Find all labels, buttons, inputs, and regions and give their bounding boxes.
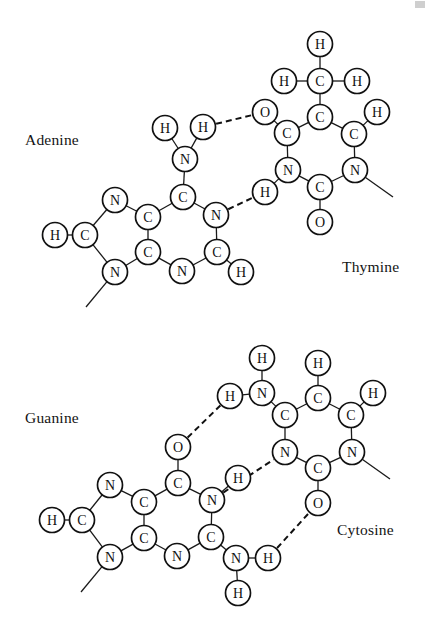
covalent-bond xyxy=(296,457,307,462)
atom-n: N xyxy=(340,440,365,465)
atom-circle xyxy=(40,508,65,533)
atom-h: H xyxy=(306,351,331,376)
atom-c: C xyxy=(308,175,333,200)
covalent-bond xyxy=(172,139,178,149)
sugar-bond-stub xyxy=(86,282,107,307)
atom-h: H xyxy=(218,384,243,409)
atom-circle xyxy=(343,158,368,183)
covalent-bond xyxy=(299,176,309,181)
covalent-bond xyxy=(194,203,205,209)
covalent-bond xyxy=(274,179,279,184)
covalent-bond xyxy=(159,203,172,211)
atom-n: N xyxy=(343,158,368,183)
covalent-bond xyxy=(93,209,107,225)
atom-h: H xyxy=(308,32,333,57)
atom-h: H xyxy=(365,100,390,125)
atom-circle xyxy=(103,260,128,285)
atom-c: C xyxy=(73,223,98,248)
atom-c: C xyxy=(306,386,331,411)
atom-circle xyxy=(250,381,275,406)
atom-circle xyxy=(103,188,128,213)
base-pair-figure: HCNNCCCNCNHNHHHCHHCCONHCONCHHCNNCCCONHCN… xyxy=(0,0,428,621)
atom-c: C xyxy=(132,490,157,515)
atom-o: O xyxy=(253,100,278,125)
atom-circle xyxy=(70,508,95,533)
atom-c: C xyxy=(70,508,95,533)
atom-n: N xyxy=(224,546,249,571)
atom-circle xyxy=(204,203,229,228)
atom-circle xyxy=(306,491,331,516)
atom-circle xyxy=(361,381,386,406)
covalent-bond xyxy=(191,138,197,148)
atom-circle xyxy=(153,116,178,141)
covalent-bond xyxy=(93,245,107,263)
atom-circle xyxy=(306,386,331,411)
atom-circle xyxy=(226,581,251,606)
atom-h: H xyxy=(226,466,251,491)
atom-h: H xyxy=(43,223,68,248)
covalent-bond xyxy=(298,122,309,127)
covalent-bond xyxy=(184,171,185,184)
atom-circle xyxy=(173,147,198,172)
atom-circle xyxy=(224,546,249,571)
atom-circle xyxy=(165,544,190,569)
atom-circle xyxy=(273,403,298,428)
atom-h: H xyxy=(250,346,275,371)
atom-circle xyxy=(98,545,123,570)
atom-circle xyxy=(191,115,216,140)
atom-n: N xyxy=(165,544,190,569)
atom-circle xyxy=(171,185,196,210)
atom-node-layer: HCNNCCCNCNHNHHHCHHCCONHCONCHHCNNCCCONHCN… xyxy=(40,32,390,606)
atom-circle xyxy=(308,175,333,200)
atom-n: N xyxy=(170,259,195,284)
atom-n: N xyxy=(98,473,123,498)
atom-h: H xyxy=(191,115,216,140)
atom-circle xyxy=(229,260,254,285)
covalent-bond xyxy=(363,121,368,126)
atom-o: O xyxy=(166,435,191,460)
atom-n: N xyxy=(98,545,123,570)
covalent-bond xyxy=(155,544,166,550)
atom-circle xyxy=(365,100,390,125)
covalent-bond xyxy=(159,258,171,265)
covalent-bond xyxy=(227,260,232,264)
atom-c: C xyxy=(308,69,333,94)
covalent-bond xyxy=(155,489,167,496)
atom-circle xyxy=(272,69,297,94)
atom-c: C xyxy=(306,456,331,481)
atom-circle xyxy=(199,525,224,550)
atom-c: C xyxy=(199,525,224,550)
atom-circle xyxy=(132,526,157,551)
atom-c: C xyxy=(205,240,230,265)
atom-circle xyxy=(136,205,161,230)
atom-circle xyxy=(340,440,365,465)
atom-c: C xyxy=(136,205,161,230)
atom-circle xyxy=(273,440,298,465)
atom-circle xyxy=(218,384,243,409)
adenine-label: Adenine xyxy=(25,131,79,149)
covalent-bond xyxy=(126,206,137,212)
guanine-label: Guanine xyxy=(25,409,79,427)
atom-h: H xyxy=(345,69,370,94)
atom-o: O xyxy=(306,491,331,516)
covalent-bond xyxy=(360,402,364,406)
atom-circle xyxy=(308,32,333,57)
hydrogen-bond xyxy=(216,115,252,124)
atom-n: N xyxy=(204,203,229,228)
atom-c: C xyxy=(339,403,364,428)
atom-c: C xyxy=(275,121,300,146)
atom-circle xyxy=(98,473,123,498)
atom-n: N xyxy=(250,381,275,406)
atom-circle xyxy=(339,403,364,428)
hydrogen-bond xyxy=(228,198,253,210)
atom-circle xyxy=(306,456,331,481)
covalent-bond xyxy=(126,258,138,265)
atom-h: H xyxy=(256,546,281,571)
atom-circle xyxy=(342,122,367,147)
atom-n: N xyxy=(276,158,301,183)
atom-h: H xyxy=(229,260,254,285)
covalent-bond xyxy=(271,402,276,407)
atom-circle xyxy=(253,100,278,125)
covalent-bond xyxy=(329,457,340,462)
atom-circle xyxy=(345,69,370,94)
